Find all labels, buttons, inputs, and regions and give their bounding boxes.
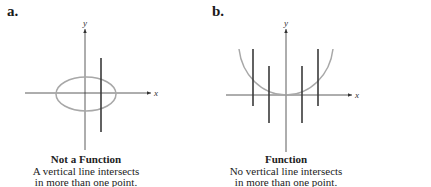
panel-a-caption: Not a Function A vertical line intersect… (0, 154, 186, 187)
panel-a-graph: x y (25, 18, 158, 150)
x-axis-label: x (354, 90, 359, 100)
caption-line: in more than one point. (186, 177, 386, 187)
caption-title: Not a Function (0, 154, 186, 166)
panel-b-caption: Function No vertical line intersects in … (186, 154, 386, 187)
ellipse-curve (56, 77, 116, 111)
y-axis-label: y (82, 18, 87, 28)
x-axis-label: x (153, 88, 158, 98)
caption-title: Function (186, 154, 386, 166)
caption-line: in more than one point. (0, 177, 186, 187)
panel-b-graph: x y (226, 18, 359, 152)
y-axis-label: y (283, 18, 288, 28)
